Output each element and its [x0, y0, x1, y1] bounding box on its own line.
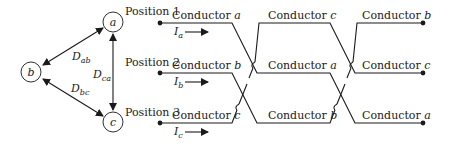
node-c-label: c: [110, 116, 116, 129]
section-2-labels: Conductor c Conductor a Conductor b: [268, 9, 337, 122]
section-1-labels: Conductor a Conductor b Conductor c: [172, 9, 241, 122]
conductor-label: Conductor c: [362, 59, 430, 72]
current-ic-label: Ic: [173, 125, 183, 140]
distance-dab-label: Dab: [71, 50, 91, 65]
conductor-label: Conductor a: [172, 9, 241, 22]
terminal-dot: [158, 71, 163, 76]
conductor-label: Conductor b: [362, 9, 431, 22]
node-b: b: [21, 62, 41, 82]
terminal-dot: [158, 21, 163, 26]
node-a: a: [103, 12, 123, 32]
distance-dca-label: Dca: [92, 68, 111, 83]
transposition-diagram: a b c Dab Dca Dbc Position 1 Position 2 …: [0, 0, 450, 146]
terminal-dot: [158, 121, 163, 126]
distance-dbc-label: Dbc: [70, 82, 90, 97]
conductor-label: Conductor a: [362, 109, 431, 122]
conductor-label: Conductor b: [172, 59, 241, 72]
section-3-labels: Conductor b Conductor c Conductor a: [362, 9, 431, 122]
conductor-label: Conductor c: [268, 9, 336, 22]
node-a-label: a: [110, 16, 117, 29]
current-ib-label: Ib: [173, 75, 183, 90]
current-ia-label: Ia: [173, 25, 183, 40]
spacing-triangle: a b c Dab Dca Dbc: [21, 12, 123, 132]
conductor-label: Conductor c: [172, 109, 240, 122]
node-c: c: [103, 112, 123, 132]
node-b-label: b: [27, 66, 34, 79]
conductor-label: Conductor b: [268, 109, 337, 122]
conductor-label: Conductor a: [268, 59, 337, 72]
